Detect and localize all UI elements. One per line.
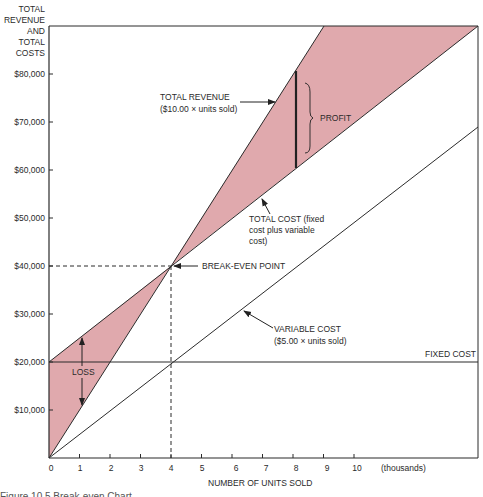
x-tick-label: 4 — [169, 463, 174, 473]
y-tick-label: $30,000 — [14, 309, 45, 319]
x-tick-label: 6 — [234, 463, 239, 473]
variable-cost-formula: ($5.00 × units sold) — [274, 336, 347, 346]
x-tick-label: 10 — [352, 463, 362, 473]
x-unit-label: (thousands) — [381, 463, 426, 473]
total-cost-line — [49, 26, 478, 362]
y-tick-label: $60,000 — [14, 165, 45, 175]
y-axis-title: REVENUE — [4, 15, 45, 25]
revenue-formula: ($10.00 × units sold) — [160, 104, 237, 114]
x-tick-label: 0 — [49, 463, 54, 473]
x-axis-title: NUMBER OF UNITS SOLD — [208, 478, 312, 488]
y-axis-title: TOTAL — [18, 4, 45, 14]
total-cost-pointer-arrow — [262, 199, 270, 214]
profit-label: PROFIT — [320, 113, 351, 123]
total-cost-label: TOTAL COST (fixed — [249, 214, 325, 224]
total-cost-label: cost plus variable — [249, 225, 315, 235]
x-tick-label: 9 — [325, 463, 330, 473]
y-tick-label: $70,000 — [14, 117, 45, 127]
revenue-label: TOTAL REVENUE — [160, 92, 230, 102]
variable-cost-label: VARIABLE COST — [274, 324, 341, 334]
y-axis-title: TOTAL — [18, 37, 45, 47]
x-tick-label: 2 — [109, 463, 114, 473]
y-tick-label: $50,000 — [14, 213, 45, 223]
x-tick-label: 1 — [78, 463, 83, 473]
breakeven-label: BREAK-EVEN POINT — [202, 261, 285, 271]
break-even-chart: $10,000 $20,000 $30,000 $40,000 $50,000 … — [0, 0, 483, 497]
figure-caption: Figure 10.5 Break-even Chart — [0, 490, 483, 497]
y-tick-label: $80,000 — [14, 69, 45, 79]
y-tick-label: $40,000 — [14, 261, 45, 271]
fixed-cost-label: FIXED COST — [425, 349, 476, 359]
loss-label: LOSS — [72, 367, 95, 377]
x-tick-label: 5 — [200, 463, 205, 473]
total-revenue-line — [49, 26, 324, 458]
y-axis-title: COSTS — [16, 48, 46, 58]
y-axis-title: AND — [27, 26, 45, 36]
total-cost-label: cost) — [249, 236, 268, 246]
variable-cost-pointer-arrow — [244, 311, 273, 328]
y-tick-label: $10,000 — [14, 405, 45, 415]
y-tick-label: $20,000 — [14, 357, 45, 367]
x-tick-label: 8 — [294, 463, 299, 473]
x-tick-label: 7 — [264, 463, 269, 473]
x-tick-label: 3 — [139, 463, 144, 473]
